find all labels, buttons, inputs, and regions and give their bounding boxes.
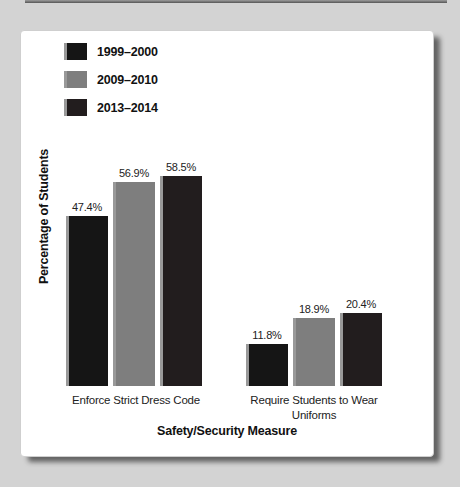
legend-item: 2009–2010 bbox=[64, 71, 158, 88]
bar bbox=[246, 344, 288, 386]
bar bbox=[66, 216, 108, 386]
legend-label: 1999–2000 bbox=[97, 45, 158, 59]
bar bbox=[293, 318, 335, 386]
legend-swatch bbox=[64, 43, 87, 60]
bar-wrap: 47.4% bbox=[66, 201, 108, 386]
bar-wrap: 11.8% bbox=[246, 329, 288, 386]
top-border-line bbox=[25, 0, 447, 3]
bar bbox=[113, 182, 155, 386]
bar-value-label: 58.5% bbox=[166, 161, 196, 173]
legend-label: 2013–2014 bbox=[97, 101, 158, 115]
category-label: Enforce Strict Dress Code bbox=[51, 393, 221, 408]
x-axis-title: Safety/Security Measure bbox=[21, 424, 433, 438]
bar-value-label: 56.9% bbox=[119, 167, 149, 179]
bar-group: 11.8%18.9%20.4% bbox=[246, 298, 382, 386]
bar bbox=[160, 176, 202, 386]
bar-wrap: 20.4% bbox=[340, 298, 382, 386]
bar-group: 47.4%56.9%58.5% bbox=[66, 161, 202, 386]
bar-value-label: 18.9% bbox=[299, 303, 329, 315]
bar-value-label: 47.4% bbox=[72, 201, 102, 213]
category-label: Require Students to Wear Uniforms bbox=[229, 393, 399, 423]
plot-area: 47.4%56.9%58.5%11.8%18.9%20.4% bbox=[46, 146, 408, 386]
legend-swatch bbox=[64, 71, 87, 88]
bar-wrap: 58.5% bbox=[160, 161, 202, 386]
legend-item: 1999–2000 bbox=[64, 43, 158, 60]
legend-label: 2009–2010 bbox=[97, 73, 158, 87]
bar-wrap: 18.9% bbox=[293, 303, 335, 386]
bar-value-label: 11.8% bbox=[252, 329, 281, 341]
legend-item: 2013–2014 bbox=[64, 99, 158, 116]
bar-wrap: 56.9% bbox=[113, 167, 155, 386]
bar bbox=[340, 313, 382, 386]
legend-swatch bbox=[64, 99, 87, 116]
chart-card: 1999–2000 2009–2010 2013–2014 Percentage… bbox=[20, 30, 434, 457]
bar-value-label: 20.4% bbox=[346, 298, 376, 310]
chart-legend: 1999–2000 2009–2010 2013–2014 bbox=[64, 43, 158, 116]
